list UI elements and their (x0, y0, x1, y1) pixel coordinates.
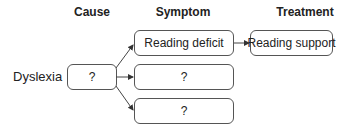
connector-arrows (0, 0, 364, 132)
arrow-cause-to-symptom-1 (116, 45, 133, 68)
arrow-cause-to-symptom-3 (116, 86, 133, 110)
